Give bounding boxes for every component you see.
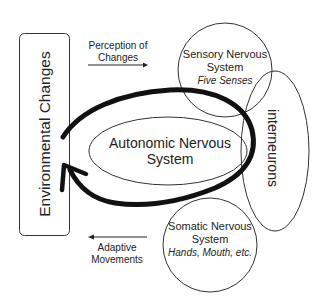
autonomic-title-line1: Autonomic Nervous: [109, 135, 231, 151]
sensory-title-line1: Sensory Nervous: [183, 48, 268, 60]
perception-arrow: Perception of Changes: [88, 40, 148, 68]
sensory-system-circle: Sensory Nervous System Five Senses: [178, 23, 272, 117]
somatic-title-line2: System: [192, 233, 229, 245]
arrow-left-icon: [88, 235, 94, 240]
sensory-title-line2: System: [207, 61, 244, 73]
arrow-right-icon: [143, 63, 148, 68]
perception-label-line2: Changes: [98, 52, 138, 63]
somatic-title-line1: Somatic Nervous: [168, 220, 252, 232]
adaptive-arrow: Adaptive Movements: [88, 235, 147, 266]
adaptive-label-line2: Movements: [91, 254, 143, 265]
interneurons-label: interneurons: [265, 109, 281, 187]
somatic-system-circle: Somatic Nervous System Hands, Mouth, etc…: [163, 198, 257, 292]
nervous-system-diagram: Environmental Changes Perception of Chan…: [0, 0, 324, 301]
sensory-subtitle: Five Senses: [197, 75, 252, 86]
adaptive-label-line1: Adaptive: [98, 242, 137, 253]
autonomic-system-ellipse: Autonomic Nervous System: [89, 117, 247, 185]
perception-label-line1: Perception of: [89, 40, 148, 51]
somatic-subtitle: Hands, Mouth, etc.: [168, 247, 252, 258]
environment-label: Environmental Changes: [36, 51, 53, 217]
autonomic-title-line2: System: [147, 151, 194, 167]
